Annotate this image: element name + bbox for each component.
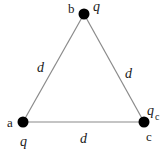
node-b-charge: q [93,0,100,14]
edge-ab-label: d [37,60,45,75]
node-b-label: b [68,1,75,16]
edge-bc [84,14,144,122]
edge-ab [23,14,84,122]
charge-a-dot [18,117,29,128]
node-c-label: c [146,129,152,144]
node-c-charge-subscript: c [155,111,160,122]
edge-bc-label: d [125,66,133,81]
node-c-charge: q [147,103,154,118]
charge-b-dot [79,9,90,20]
node-a-charge: q [20,134,27,149]
node-a-label: a [7,115,13,130]
triangle-diagram: b q a q c q c d d d [0,0,168,153]
edge-ac-label: d [80,131,88,146]
charge-c-dot [139,117,150,128]
